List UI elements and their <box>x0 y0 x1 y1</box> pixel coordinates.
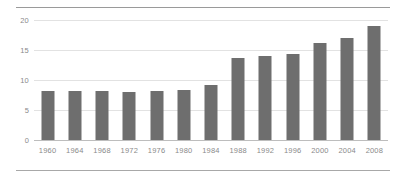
x-axis-tick-label: 1980 <box>175 146 193 155</box>
bar-slot: 1988 <box>225 20 252 140</box>
x-axis-tick-label: 1992 <box>257 146 275 155</box>
bar-chart-figure: 05101520 1960196419681972197619801984198… <box>0 0 406 177</box>
y-axis-tick-label: 5 <box>25 106 29 115</box>
bar-1992 <box>259 56 272 140</box>
bar-1960 <box>41 91 54 140</box>
y-axis-tick-label: 15 <box>20 46 29 55</box>
bar-slot: 1964 <box>61 20 88 140</box>
x-axis-tick-label: 1988 <box>229 146 247 155</box>
top-divider-rule <box>16 7 390 8</box>
x-axis-tick-label: 1964 <box>66 146 84 155</box>
bar-1980 <box>177 90 190 140</box>
bar-1976 <box>150 91 163 140</box>
x-axis-tick-label: 1996 <box>284 146 302 155</box>
bar-slot: 1976 <box>143 20 170 140</box>
x-axis-tick-label: 1984 <box>202 146 220 155</box>
x-axis-tick-label: 1972 <box>121 146 139 155</box>
plot-area: 05101520 1960196419681972197619801984198… <box>34 20 388 146</box>
bar-slot: 2000 <box>306 20 333 140</box>
bar-1996 <box>286 54 299 140</box>
bar-1968 <box>96 91 109 140</box>
bar-slot: 1968 <box>88 20 115 140</box>
bar-slot: 1984 <box>197 20 224 140</box>
bottom-divider-rule <box>16 170 390 171</box>
bar-2004 <box>341 38 354 140</box>
y-axis-tick-label: 20 <box>20 16 29 25</box>
bar-slot: 1972 <box>116 20 143 140</box>
bar-slot: 1960 <box>34 20 61 140</box>
bar-slot: 2004 <box>334 20 361 140</box>
x-axis-tick-label: 1976 <box>148 146 166 155</box>
bars-group: 1960196419681972197619801984198819921996… <box>34 20 388 140</box>
x-axis-tick-label: 1968 <box>93 146 111 155</box>
bar-slot: 2008 <box>361 20 388 140</box>
x-axis-tick-label: 2008 <box>366 146 384 155</box>
bar-1988 <box>232 58 245 140</box>
gridline-0 <box>34 140 388 141</box>
x-axis-tick-label: 2004 <box>338 146 356 155</box>
bar-slot: 1980 <box>170 20 197 140</box>
y-axis-tick-label: 10 <box>20 76 29 85</box>
bar-slot: 1992 <box>252 20 279 140</box>
x-axis-tick-label: 2000 <box>311 146 329 155</box>
bar-2008 <box>368 26 381 140</box>
y-axis-tick-label: 0 <box>25 136 29 145</box>
x-axis-tick-label: 1960 <box>39 146 57 155</box>
bar-slot: 1996 <box>279 20 306 140</box>
bar-1964 <box>68 91 81 140</box>
bar-2000 <box>313 43 326 140</box>
bar-1984 <box>204 85 217 140</box>
bar-1972 <box>123 92 136 140</box>
